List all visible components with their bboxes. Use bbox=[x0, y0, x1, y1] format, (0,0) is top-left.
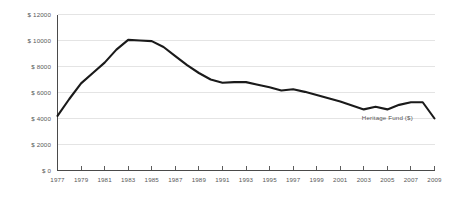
x-axis-tick-label: 1985 bbox=[145, 176, 160, 183]
series-inline-label: Heritage Fund ($) bbox=[362, 114, 413, 121]
x-axis-tick-label: 2005 bbox=[380, 176, 395, 183]
y-axis-tick-label: $ 2000 bbox=[31, 141, 51, 148]
y-axis-tick-label: $ 4000 bbox=[31, 115, 51, 122]
x-axis-tick-label: 1983 bbox=[121, 176, 136, 183]
y-axis-tick-label: $ 6000 bbox=[31, 89, 51, 96]
x-axis-tick-marks bbox=[58, 166, 435, 171]
chart-canvas: $ 0$ 2000$ 4000$ 6000$ 8000$ 10000$ 1200… bbox=[0, 0, 459, 200]
x-axis-tick-label: 2007 bbox=[404, 176, 419, 183]
x-axis-tick-label: 1987 bbox=[168, 176, 183, 183]
y-axis-tick-label: $ 12000 bbox=[28, 11, 52, 18]
x-axis-tick-label: 1979 bbox=[74, 176, 89, 183]
y-axis-tick-labels: $ 0$ 2000$ 4000$ 6000$ 8000$ 10000$ 1200… bbox=[28, 11, 52, 174]
x-axis-tick-label: 2001 bbox=[333, 176, 348, 183]
y-axis-tick-label: $ 8000 bbox=[31, 63, 51, 70]
series-line-heritage-fund bbox=[58, 40, 435, 119]
gridlines bbox=[58, 15, 435, 145]
x-axis-tick-label: 1993 bbox=[239, 176, 254, 183]
x-axis-tick-labels: 1977197919811983198519871989199119931995… bbox=[50, 176, 442, 183]
x-axis-tick-label: 1999 bbox=[310, 176, 325, 183]
x-axis-tick-label: 1981 bbox=[97, 176, 112, 183]
heritage-fund-line-chart: $ 0$ 2000$ 4000$ 6000$ 8000$ 10000$ 1200… bbox=[0, 0, 459, 200]
x-axis-tick-label: 2009 bbox=[427, 176, 442, 183]
y-axis-tick-label: $ 10000 bbox=[28, 37, 52, 44]
x-axis-tick-label: 1989 bbox=[192, 176, 207, 183]
x-axis-tick-label: 1977 bbox=[50, 176, 65, 183]
x-axis-tick-label: 1991 bbox=[215, 176, 230, 183]
y-axis-tick-label: $ 0 bbox=[42, 167, 51, 174]
x-axis-tick-label: 1997 bbox=[286, 176, 301, 183]
x-axis-tick-label: 1995 bbox=[262, 176, 277, 183]
x-axis-tick-label: 2003 bbox=[357, 176, 372, 183]
